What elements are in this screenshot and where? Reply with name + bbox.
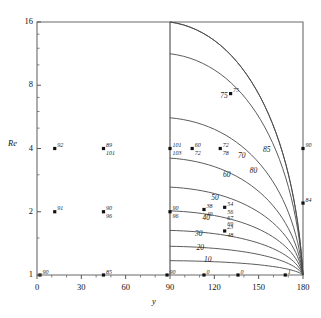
data-point	[102, 210, 105, 213]
data-point	[236, 273, 239, 276]
point-label-bottom: 48	[227, 232, 233, 238]
point-label-bottom: 72	[195, 150, 201, 156]
data-point	[168, 147, 171, 150]
point-label-bottom: 78	[223, 150, 229, 156]
point-label-top: 0	[206, 269, 209, 275]
point-label-bottom: 103	[173, 150, 182, 156]
point-label-top: 101	[173, 142, 182, 148]
x-axis-title: y	[152, 297, 156, 306]
x-tick-label: 120	[206, 283, 222, 292]
data-point	[168, 210, 171, 213]
point-label-top: 92	[57, 142, 63, 148]
point-label-top: 38	[206, 203, 212, 209]
chart-figure: 0306090120150180124816102030405060707585…	[0, 0, 321, 318]
point-label-top: 85	[106, 269, 112, 275]
data-point	[165, 273, 168, 276]
y-tick-label: 4	[20, 144, 33, 153]
point-label-top: 84	[306, 197, 312, 203]
point-label-top: 89	[106, 142, 112, 148]
point-label-top: 1	[288, 269, 291, 275]
data-point	[284, 273, 287, 276]
data-point	[191, 147, 194, 150]
data-point	[301, 147, 304, 150]
x-tick-label: 0	[29, 283, 45, 292]
point-label-top: 90	[42, 269, 48, 275]
chart-curves	[170, 22, 303, 275]
point-label-top: 0	[240, 269, 243, 275]
curve-label: 85	[263, 146, 271, 154]
data-point	[53, 147, 56, 150]
point-label-top: 90	[106, 205, 112, 211]
curve-label: 20	[197, 244, 205, 252]
point-label-top: 90	[306, 142, 312, 148]
x-tick-label: 180	[295, 283, 311, 292]
y-tick-label: 16	[20, 17, 33, 26]
point-label-top: 54	[227, 201, 233, 207]
data-point	[219, 147, 222, 150]
point-label-bottom: 96	[106, 213, 112, 219]
point-label-top: 90	[173, 205, 179, 211]
x-tick-label: 60	[118, 283, 134, 292]
data-point	[53, 210, 56, 213]
y-tick-label: 8	[20, 80, 33, 89]
point-label-top: 75	[233, 87, 239, 93]
y-axis-title: Re	[8, 139, 17, 148]
data-point	[229, 92, 232, 95]
curve-label: 75	[220, 92, 228, 100]
data-point	[202, 273, 205, 276]
x-tick-label: 150	[251, 283, 267, 292]
point-label-bottom: 101	[106, 150, 115, 156]
chart-data-points	[38, 92, 304, 277]
curve-label: 60	[223, 171, 231, 179]
point-label-top: 72	[223, 142, 229, 148]
curve-label: 80	[250, 167, 258, 175]
y-tick-label: 2	[20, 207, 33, 216]
point-label-bottom: 40	[206, 211, 212, 217]
point-label-top: 91	[57, 205, 63, 211]
point-label-bottom: 96	[173, 213, 179, 219]
x-tick-label: 30	[73, 283, 89, 292]
curve-label: 10	[204, 256, 212, 264]
data-point	[102, 147, 105, 150]
curve-label: 70	[238, 152, 246, 160]
point-label-extra: 69	[227, 221, 233, 227]
data-point	[301, 201, 304, 204]
y-tick-label: 1	[20, 270, 33, 279]
data-point	[223, 206, 226, 209]
curve-label: 50	[211, 194, 219, 202]
data-point	[223, 229, 226, 232]
curve-label: 30	[195, 230, 203, 238]
x-tick-label: 90	[162, 283, 178, 292]
data-point	[102, 273, 105, 276]
point-label-top: 60	[195, 142, 201, 148]
point-label-top: 90	[170, 269, 176, 275]
